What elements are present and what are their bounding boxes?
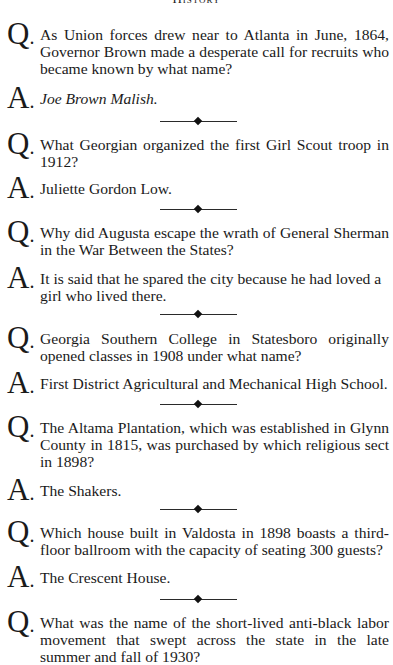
diamond-rule-divider	[160, 400, 237, 409]
marker-dot: .	[29, 419, 34, 441]
marker-dot: .	[29, 482, 34, 504]
diamond-rule-divider	[160, 505, 237, 514]
answer-marker: A.	[7, 476, 34, 507]
marker-dot: .	[29, 90, 34, 112]
marker-dot: .	[29, 330, 34, 352]
answer-text: Juliette Gordon Low.	[40, 180, 389, 197]
question-letter: Q	[7, 16, 29, 51]
question-marker: Q.	[7, 518, 34, 549]
diamond-icon	[194, 205, 202, 213]
diamond-icon	[194, 310, 202, 318]
question-marker: Q.	[7, 218, 34, 249]
answer-marker: A.	[7, 174, 34, 205]
marker-dot: .	[29, 614, 34, 636]
marker-dot: .	[29, 524, 34, 546]
diamond-rule-divider	[160, 117, 237, 126]
question-letter: Q	[7, 320, 29, 355]
answer-text: Joe Brown Malish.	[40, 90, 389, 107]
diamond-icon	[194, 400, 202, 408]
marker-dot: .	[29, 224, 34, 246]
answer-letter: A	[7, 365, 29, 400]
question-text: What Georgian organized the first Girl S…	[40, 136, 389, 170]
answer-text: It is said that he spared the city becau…	[40, 270, 389, 304]
diamond-icon	[194, 505, 202, 513]
marker-dot: .	[29, 136, 34, 158]
marker-dot: .	[29, 375, 34, 397]
marker-dot: .	[29, 26, 34, 48]
marker-dot: .	[29, 270, 34, 292]
answer-text: The Shakers.	[40, 482, 389, 499]
diamond-rule-divider	[160, 205, 237, 214]
answer-letter: A	[7, 559, 29, 594]
question-marker: Q.	[7, 608, 34, 639]
question-marker: Q.	[7, 130, 34, 161]
marker-dot: .	[29, 569, 34, 591]
answer-marker: A.	[7, 563, 34, 594]
question-marker: Q.	[7, 324, 34, 355]
diamond-rule-divider	[160, 310, 237, 319]
section-title: History	[0, 0, 393, 6]
question-text: Why did Augusta escape the wrath of Gene…	[40, 224, 389, 258]
question-marker: Q.	[7, 20, 34, 51]
answer-letter: A	[7, 170, 29, 205]
answer-letter: A	[7, 260, 29, 295]
question-text: The Altama Plantation, which was establi…	[40, 419, 389, 470]
answer-marker: A.	[7, 84, 34, 115]
question-letter: Q	[7, 604, 29, 639]
answer-letter: A	[7, 472, 29, 507]
answer-text: First District Agricultural and Mechanic…	[40, 375, 389, 392]
answer-letter: A	[7, 80, 29, 115]
diamond-icon	[194, 595, 202, 603]
question-letter: Q	[7, 409, 29, 444]
marker-dot: .	[29, 180, 34, 202]
diamond-icon	[194, 117, 202, 125]
question-text: As Union forces drew near to Atlanta in …	[40, 26, 389, 77]
question-text: Which house built in Valdosta in 1898 bo…	[40, 524, 389, 558]
question-letter: Q	[7, 514, 29, 549]
question-text: Georgia Southern College in Statesboro o…	[40, 330, 389, 364]
question-text: What was the name of the short-lived ant…	[40, 614, 389, 665]
answer-marker: A.	[7, 264, 34, 295]
answer-marker: A.	[7, 369, 34, 400]
question-marker: Q.	[7, 413, 34, 444]
diamond-rule-divider	[160, 595, 237, 604]
answer-text: The Crescent House.	[40, 569, 389, 586]
question-letter: Q	[7, 214, 29, 249]
question-letter: Q	[7, 126, 29, 161]
